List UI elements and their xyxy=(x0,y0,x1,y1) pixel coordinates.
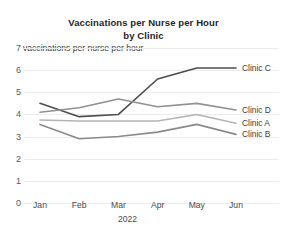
series-line-clinic-d xyxy=(40,99,236,112)
x-axis-tick-label: May xyxy=(189,200,205,210)
chart-container: Vaccinations per Nurse per Hour by Clini… xyxy=(0,0,287,245)
x-axis-tick-label: Apr xyxy=(151,200,164,210)
series-label-clinic-a: Clinic A xyxy=(242,118,270,128)
series-label-clinic-d: Clinic D xyxy=(242,105,271,115)
series-label-clinic-b: Clinic B xyxy=(242,129,270,139)
x-axis-label: 2022 xyxy=(118,214,137,224)
series-line-clinic-a xyxy=(40,114,236,123)
series-line-clinic-b xyxy=(40,124,236,138)
x-axis-tick-label: Jun xyxy=(229,200,243,210)
series-label-clinic-c: Clinic C xyxy=(242,63,271,73)
plot-area: 01234567 JanFebMarAprMayJun Clinic CClin… xyxy=(0,0,287,245)
x-axis-tick-label: Jan xyxy=(33,200,47,210)
x-axis-tick-label: Mar xyxy=(111,200,126,210)
x-axis-label-wrap: 2022 xyxy=(0,214,287,224)
x-axis-tick-label: Feb xyxy=(72,200,87,210)
